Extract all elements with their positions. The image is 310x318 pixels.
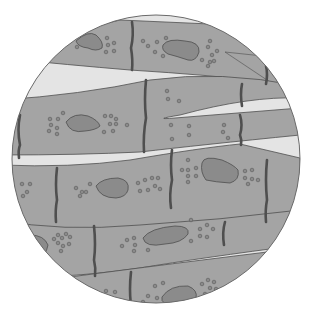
cardiac-muscle-diagram bbox=[0, 0, 310, 318]
intercalated-disc bbox=[94, 226, 95, 276]
intercalated-disc bbox=[56, 168, 57, 222]
intercalated-disc bbox=[130, 272, 131, 305]
intercalated-disc bbox=[241, 84, 242, 106]
intercalated-disc bbox=[240, 115, 242, 145]
intercalated-disc bbox=[19, 115, 21, 158]
intercalated-disc bbox=[266, 160, 267, 222]
field-of-view bbox=[0, 0, 310, 318]
tissue-figure bbox=[0, 0, 310, 318]
intercalated-disc bbox=[266, 66, 267, 84]
